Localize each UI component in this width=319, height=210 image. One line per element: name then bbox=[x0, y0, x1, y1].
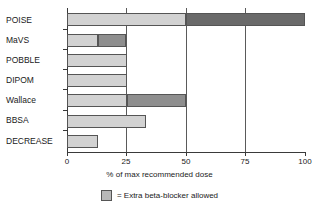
x-axis-tick-label-75: 75 bbox=[241, 157, 250, 166]
bar-segment-base bbox=[67, 135, 98, 148]
bar-segment-extra bbox=[186, 13, 305, 26]
bar-segment-base bbox=[67, 34, 98, 47]
category-label-dipom: DIPOM bbox=[6, 75, 34, 85]
category-label-bbsa: BBSA bbox=[6, 115, 29, 125]
bar-segment-extra bbox=[127, 94, 187, 107]
gridline-75 bbox=[245, 8, 246, 152]
bar-segment-base bbox=[67, 74, 127, 87]
category-label-wallace: Wallace bbox=[6, 95, 36, 105]
bar-segment-base bbox=[67, 54, 127, 67]
x-axis-tick bbox=[186, 152, 187, 156]
y-axis-tick bbox=[63, 130, 67, 131]
y-axis-tick bbox=[63, 89, 67, 90]
x-axis-tick-label-0: 0 bbox=[65, 157, 69, 166]
bar-segment-base bbox=[67, 13, 186, 26]
x-axis-tick-label-100: 100 bbox=[298, 157, 311, 166]
x-axis-tick bbox=[245, 152, 246, 156]
legend: = Extra beta-blocker allowed bbox=[0, 190, 319, 201]
y-axis-tick bbox=[63, 69, 67, 70]
y-axis-tick bbox=[63, 49, 67, 50]
category-label-decrease: DECREASE bbox=[6, 136, 53, 146]
legend-swatch-icon bbox=[101, 190, 112, 201]
x-axis-tick bbox=[305, 152, 306, 156]
category-label-mavs: MaVS bbox=[6, 35, 29, 45]
x-axis-tick-label-50: 50 bbox=[182, 157, 191, 166]
gridline-50 bbox=[186, 8, 187, 152]
y-axis-tick bbox=[63, 110, 67, 111]
x-axis-title: % of max recommended dose bbox=[0, 170, 319, 179]
category-label-pobble: POBBLE bbox=[6, 55, 40, 65]
bar-chart: POISE MaVS POBBLE DIPOM Wallace BBSA DEC… bbox=[0, 0, 319, 210]
y-axis-tick bbox=[63, 29, 67, 30]
x-axis-tick-label-25: 25 bbox=[122, 157, 131, 166]
bar-segment-base bbox=[67, 94, 127, 107]
bar-segment-base bbox=[67, 115, 146, 128]
x-axis-tick bbox=[67, 152, 68, 156]
category-label-poise: POISE bbox=[6, 15, 32, 25]
legend-label: = Extra beta-blocker allowed bbox=[117, 191, 218, 200]
x-axis-tick bbox=[126, 152, 127, 156]
bar-segment-extra bbox=[98, 34, 127, 47]
